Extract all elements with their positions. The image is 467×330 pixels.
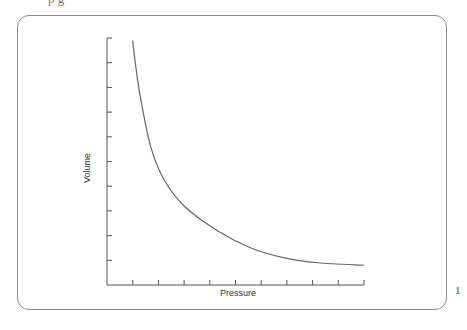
- chart: Pressure Volume: [0, 0, 467, 330]
- y-axis-label: Volume: [82, 153, 92, 183]
- cut-off-text-right: 1: [455, 284, 461, 296]
- x-axis-label: Pressure: [220, 288, 256, 298]
- ticks: [107, 38, 364, 285]
- axes: [107, 38, 364, 285]
- series-line: [133, 40, 364, 265]
